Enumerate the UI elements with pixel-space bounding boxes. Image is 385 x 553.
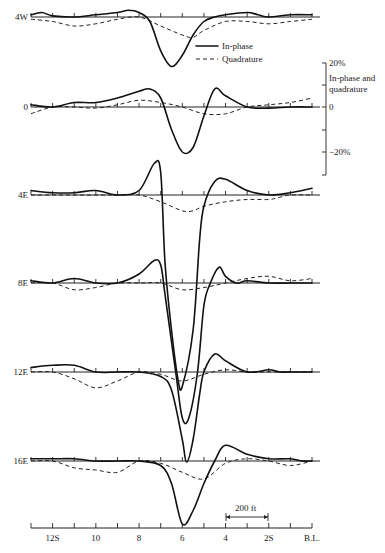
x-tick-label: 4 bbox=[223, 533, 228, 543]
x-tick-label: 6 bbox=[180, 533, 185, 543]
vertical-scale: 20% In-phase and quadrature 0 −20% bbox=[322, 58, 376, 175]
profile-0: 0 bbox=[24, 88, 321, 153]
profile-lines: 4W04E8E12E16E bbox=[14, 10, 321, 525]
legend-inphase-label: In-phase bbox=[222, 41, 253, 51]
quadrature-curve bbox=[31, 17, 312, 38]
profile-12E: 12E bbox=[14, 354, 321, 462]
profile-4W: 4W bbox=[15, 10, 320, 66]
legend: In-phase Quadrature bbox=[196, 41, 262, 64]
scale-label-0: 0 bbox=[329, 102, 334, 112]
quadrature-curve bbox=[31, 98, 312, 115]
profile-label: 8E bbox=[18, 278, 29, 288]
profile-label: 12E bbox=[14, 367, 29, 377]
quadrature-curve bbox=[31, 195, 312, 212]
x-axis: 12S108642SB.L. bbox=[31, 523, 320, 543]
profile-label: 0 bbox=[24, 102, 29, 112]
profile-label: 16E bbox=[14, 456, 29, 466]
legend-quadrature-label: Quadrature bbox=[222, 54, 262, 64]
profile-16E: 16E bbox=[14, 445, 321, 525]
scale-title-line1: In-phase and bbox=[329, 73, 376, 83]
x-tick-label: 12S bbox=[46, 533, 60, 543]
scale-label-20: 20% bbox=[329, 58, 346, 68]
in-phase-curve bbox=[31, 445, 312, 525]
in-phase-curve bbox=[31, 260, 312, 424]
in-phase-curve bbox=[31, 354, 312, 462]
profile-8E: 8E bbox=[18, 260, 320, 424]
scale-bar-label: 200 ft bbox=[235, 503, 257, 513]
profile-4E: 4E bbox=[18, 161, 320, 391]
profile-label: 4E bbox=[18, 190, 29, 200]
x-tick-label: 10 bbox=[91, 533, 101, 543]
x-tick-label: B.L. bbox=[304, 533, 320, 543]
quadrature-curve bbox=[31, 459, 312, 480]
distance-scale-bar: 200 ft bbox=[226, 503, 268, 521]
in-phase-curve bbox=[31, 10, 312, 66]
scale-title-line2: quadrature bbox=[329, 84, 367, 94]
in-phase-curve bbox=[31, 88, 312, 153]
scale-label-minus20: −20% bbox=[329, 147, 351, 157]
profile-label: 4W bbox=[15, 12, 29, 22]
x-tick-label: 2S bbox=[264, 533, 274, 543]
x-tick-label: 8 bbox=[137, 533, 142, 543]
em-profile-chart: 4W04E8E12E16E In-phase Quadrature 20% In… bbox=[0, 0, 385, 553]
